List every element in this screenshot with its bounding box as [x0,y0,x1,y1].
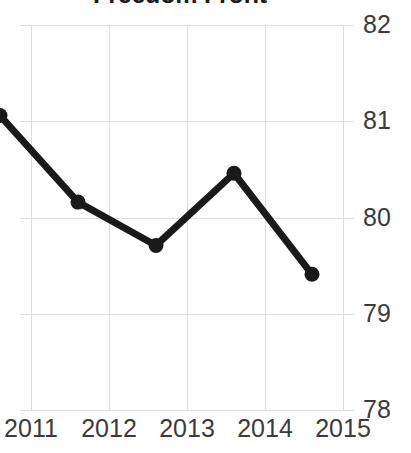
data-point-2014 [227,166,242,181]
data-point-2015 [305,267,320,282]
x-tick-label-2012: 2012 [64,415,154,441]
y-tick-label-82: 82 [363,12,409,37]
series-line-freedom-front [0,0,380,428]
data-point-2012 [71,195,86,210]
series-markers [0,108,320,282]
y-tick-label-81: 81 [363,108,409,133]
x-tick-label-2013: 2013 [142,415,232,441]
line-chart: Freedom Front 7879808182 201120122013201… [0,0,411,453]
y-tick-label-79: 79 [363,301,409,326]
x-tick-label-2015: 2015 [298,415,388,441]
x-tick-label-2014: 2014 [220,415,310,441]
data-point-2013 [149,238,164,253]
y-tick-label-80: 80 [363,205,409,230]
